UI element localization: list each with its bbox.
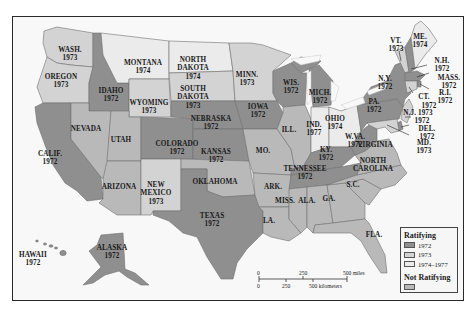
label-alaska: ALASKA1972 xyxy=(97,244,128,261)
label-mich: MICH.1972 xyxy=(309,89,332,106)
label-hawaii: HAWAII1972 xyxy=(19,251,47,268)
scale-km-0: 0 xyxy=(257,283,260,289)
scale-bar: 0 250 500 miles 0 250 500 kilometers xyxy=(257,270,357,294)
legend-ratifying-title: Ratifying xyxy=(404,231,454,240)
label-colorado: COLORADO1972 xyxy=(155,140,198,157)
state-mass xyxy=(405,71,425,81)
label-oklahoma: OKLAHOMA xyxy=(192,178,237,186)
label-arizona: ARIZONA xyxy=(102,183,137,191)
label-texas: TEXAS1972 xyxy=(200,212,224,229)
scale-miles-250: 250 xyxy=(299,270,307,276)
label-fla: FLA. xyxy=(366,231,383,239)
scale-km-250: 250 xyxy=(282,283,290,289)
legend-label-1972: 1972 xyxy=(418,242,431,249)
legend-not-ratifying-title: Not Ratifying xyxy=(404,273,454,282)
label-mo: MO. xyxy=(256,147,270,155)
legend-swatch-1973 xyxy=(404,252,415,258)
label-utah: UTAH xyxy=(111,136,132,144)
label-ind: IND.1977 xyxy=(306,121,321,138)
label-iowa: IOWA1972 xyxy=(248,103,268,120)
label-wis: WIS.1972 xyxy=(283,79,299,96)
label-ga: GA. xyxy=(323,195,336,203)
label-ky: KY.1972 xyxy=(319,146,334,163)
label-la: LA. xyxy=(263,217,275,225)
legend-swatch-1974-1977 xyxy=(404,261,415,267)
legend-item-1974-1977: 1974–1977 xyxy=(404,260,454,269)
label-sd: SOUTHDAKOTA1973 xyxy=(177,85,209,110)
legend-item-not-ratifying xyxy=(404,283,454,292)
label-minn: MINN.1973 xyxy=(236,71,258,88)
scale-miles-500: 500 miles xyxy=(343,270,365,276)
label-nd: NORTHDAKOTA1974 xyxy=(177,56,209,81)
label-montana: MONTANA1974 xyxy=(124,59,162,76)
label-ri: R.I.1972 xyxy=(438,89,453,106)
label-ohio: OHIO1974 xyxy=(325,115,345,132)
label-wash: WASH.1973 xyxy=(58,46,81,63)
legend-swatch-not-ratifying xyxy=(404,284,415,290)
label-idaho: IDAHO1972 xyxy=(99,87,124,104)
label-ill: ILL. xyxy=(282,126,297,134)
label-ny: N.Y.1972 xyxy=(378,75,393,92)
label-me: ME.1974 xyxy=(413,33,428,50)
label-calif: CALIF.1972 xyxy=(38,150,62,167)
label-miss: MISS. xyxy=(275,197,295,205)
label-ala: ALA. xyxy=(298,197,315,205)
label-md: MD.1973 xyxy=(417,139,432,156)
map-frame: WASH.1973 OREGON1973 CALIF.1972 IDAHO197… xyxy=(12,16,464,301)
legend-item-1973: 1973 xyxy=(404,251,454,260)
label-nevada: NEVADA xyxy=(71,125,101,133)
legend-item-1972: 1972 xyxy=(404,241,454,250)
label-nh: N.H.1972 xyxy=(435,57,450,74)
label-wyoming: WYOMING1973 xyxy=(129,99,168,116)
label-nc: NORTHCAROLINA xyxy=(353,157,393,174)
legend-label-1973: 1973 xyxy=(418,251,431,258)
label-vt: VT.1973 xyxy=(389,37,404,54)
label-oregon: OREGON1973 xyxy=(45,73,78,90)
label-pa: PA.1972 xyxy=(367,98,382,115)
label-sc: S.C. xyxy=(346,181,359,189)
state-fla xyxy=(313,219,387,273)
scale-km-500: 500 kilometers xyxy=(309,283,342,289)
label-nebraska: NEBRASKA1972 xyxy=(191,115,232,132)
state-ct xyxy=(405,81,417,93)
label-ark: ARK. xyxy=(264,183,282,191)
label-tenn: TENNESSEE1972 xyxy=(283,165,326,182)
label-kansas: KANSAS1972 xyxy=(201,148,231,165)
label-ct: CT. xyxy=(418,93,430,101)
legend-swatch-1972 xyxy=(404,242,415,248)
scale-miles-0: 0 xyxy=(257,270,260,276)
label-wva: W.VA.1972 xyxy=(345,133,365,150)
legend-label-1974-1977: 1974–1977 xyxy=(418,261,448,268)
label-newmexico: NEWMEXICO1973 xyxy=(141,181,172,206)
legend: Ratifying 1972 1973 1974–1977 Not Ratify… xyxy=(400,227,458,293)
